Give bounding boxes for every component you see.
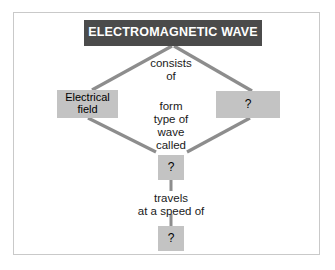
diagram-canvas: ELECTROMAGNETIC WAVE Electrical field ? … [0,0,335,270]
label-consists-of: consists of [131,57,211,83]
label-form-type-of-wave-called: form type of wave called [131,100,211,152]
label-travels-at-a-speed-of: travels at a speed of [112,192,230,218]
node-electrical-field: Electrical field [57,90,118,118]
node-unknown-right: ? [216,91,280,118]
node-unknown-wave-type: ? [158,155,184,180]
node-unknown-speed: ? [158,226,184,251]
node-electromagnetic-wave: ELECTROMAGNETIC WAVE [84,20,262,46]
